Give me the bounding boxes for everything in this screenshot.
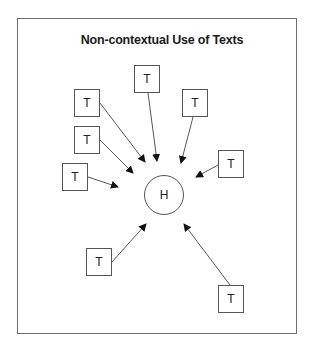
arrow-left-lower: [88, 177, 118, 187]
text-node-upper-right: T: [182, 89, 208, 117]
text-node-right: T: [218, 150, 244, 178]
arrow-bottom-right: [184, 224, 230, 285]
arrow-right: [196, 165, 218, 177]
text-node-bottom-right: T: [218, 285, 244, 313]
arrows-layer: [0, 0, 314, 349]
text-node-top-center: T: [134, 65, 160, 93]
arrow-left-middle: [100, 140, 133, 173]
arrow-upper-right: [181, 117, 193, 163]
text-node-left-lower: T: [62, 163, 88, 191]
arrow-bottom-left: [112, 224, 146, 262]
center-node-h: H: [144, 175, 184, 215]
text-node-left-middle: T: [74, 126, 100, 154]
arrow-top-center: [148, 93, 157, 161]
text-node-bottom-left: T: [86, 248, 112, 276]
arrow-upper-left: [100, 103, 145, 162]
text-node-upper-left: T: [74, 89, 100, 117]
